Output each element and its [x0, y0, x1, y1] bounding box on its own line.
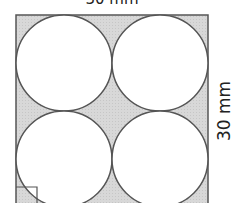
- circle-top-right: [112, 15, 208, 111]
- circle-bottom-left: [16, 111, 112, 203]
- circle-bottom-right: [112, 111, 208, 203]
- side-dimension-label: 30 mm: [214, 81, 234, 141]
- circle-top-left: [16, 15, 112, 111]
- diagram: 30 mm 30 mm: [0, 0, 239, 203]
- top-dimension-label: 30 mm: [85, 0, 138, 8]
